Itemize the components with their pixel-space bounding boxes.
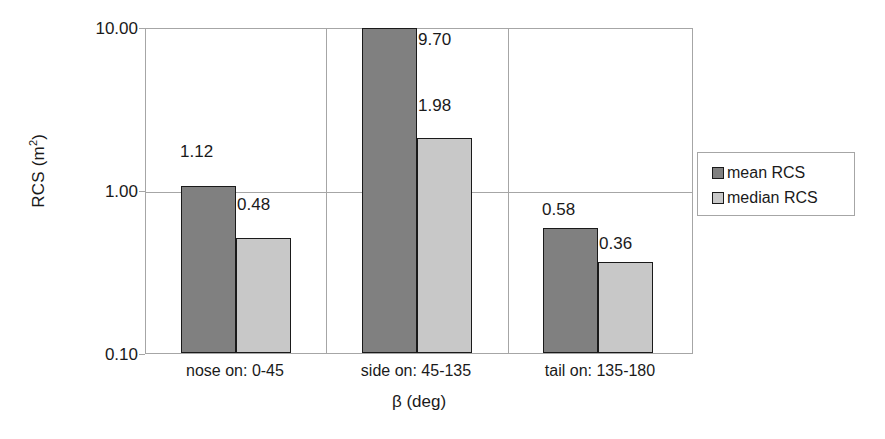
category-label-side-on: side on: 45-135 [325, 362, 507, 380]
data-label-mean-tail-on: 0.58 [542, 201, 575, 218]
y-axis-title: RCS (m2) [27, 91, 49, 251]
bar-mean-tail-on [543, 228, 598, 353]
legend-label-mean-rcs: mean RCS [727, 164, 805, 182]
category-label-nose-on: nose on: 0-45 [145, 362, 325, 380]
y-tick-label-0-1: 0.10 [68, 346, 138, 363]
data-label-median-nose-on: 0.48 [237, 196, 270, 213]
bar-median-nose-on [236, 238, 291, 353]
legend-item-mean-rcs: mean RCS [712, 160, 854, 185]
y-axis-title-exponent: 2 [27, 140, 39, 146]
y-axis-tick-labels: 10.00 1.00 0.10 [62, 0, 138, 439]
plot-area [145, 28, 693, 354]
data-label-median-side-on: 1.98 [418, 97, 451, 114]
legend-item-median-rcs: median RCS [712, 185, 854, 210]
bar-median-side-on [417, 138, 472, 353]
bar-mean-side-on [362, 28, 417, 353]
data-label-median-tail-on: 0.36 [599, 235, 632, 252]
bar-median-tail-on [598, 262, 653, 353]
category-separator-1 [326, 29, 327, 353]
legend-swatch-median-rcs [712, 192, 724, 204]
legend: mean RCS median RCS [697, 152, 855, 216]
bar-mean-nose-on [181, 186, 236, 353]
data-label-mean-nose-on: 1.12 [180, 143, 213, 160]
y-tick-label-10: 10.00 [68, 20, 138, 37]
legend-swatch-mean-rcs [712, 167, 724, 179]
data-label-mean-side-on: 9.70 [418, 31, 451, 48]
y-axis-title-paren: ) [29, 134, 48, 140]
category-label-tail-on: tail on: 135-180 [507, 362, 693, 380]
x-axis-title: β (deg) [145, 392, 693, 412]
y-tick-mark-0-1 [139, 354, 145, 355]
category-separator-2 [508, 29, 509, 353]
rcs-bar-chart: RCS (m2) 10.00 1.00 0.10 1.12 0.48 9.70 … [0, 0, 885, 439]
y-axis-title-text: RCS (m [29, 146, 48, 208]
legend-label-median-rcs: median RCS [727, 189, 818, 207]
y-tick-label-1: 1.00 [68, 183, 138, 200]
